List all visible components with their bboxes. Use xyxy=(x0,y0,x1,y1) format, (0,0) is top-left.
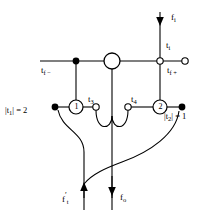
dot-open-bus-end xyxy=(182,58,188,64)
feedback-curve-left xyxy=(58,110,84,198)
flow-graph-svg xyxy=(0,0,214,216)
arrowhead-input-down xyxy=(156,17,164,26)
arc-t3-inner xyxy=(96,110,112,127)
label-f-input: fi xyxy=(171,13,176,22)
label-t-input: ti xyxy=(166,41,170,50)
label-f-input-sub: i xyxy=(174,16,176,23)
label-t-input-sub: i xyxy=(169,44,171,51)
label-mag-t1-sub: 1 xyxy=(9,109,12,116)
label-t4: t4 xyxy=(131,95,137,104)
dot-filled-t2 xyxy=(179,104,186,111)
label-mag-t2: |t2| = 1 xyxy=(164,112,186,121)
dot-filled-t1 xyxy=(52,104,59,111)
label-mag-t2-value: | = 1 xyxy=(171,111,186,121)
node-1-label: 1 xyxy=(72,103,81,111)
center-summing-junction xyxy=(104,53,120,69)
label-f-t-sub: t xyxy=(67,198,69,205)
label-f-o-sub: o xyxy=(123,196,126,203)
figure-canvas: 1 2 fi ti tf − tf + t3 t4 |t1| = 2 |t2| … xyxy=(0,0,214,216)
label-t3-sub: 3 xyxy=(91,98,94,105)
label-t-f-plus: tf + xyxy=(167,66,177,75)
label-mag-t1-value: | = 2 xyxy=(12,105,27,115)
node-2-label: 2 xyxy=(156,103,165,111)
label-mag-t2-sub: 2 xyxy=(168,115,171,122)
label-t-f-plus-sub: f + xyxy=(170,69,177,76)
label-t4-sub: 4 xyxy=(134,98,137,105)
dot-filled-top-left xyxy=(73,58,80,65)
label-t-f-minus: tf − xyxy=(41,66,51,75)
label-f-o: fo xyxy=(120,193,126,202)
dot-open-t4 xyxy=(125,104,131,110)
label-mag-t1: |t1| = 2 xyxy=(5,106,27,115)
label-t3: t3 xyxy=(88,95,94,104)
label-t-f-minus-sub: f − xyxy=(44,69,51,76)
arrowhead-output-down xyxy=(108,187,116,196)
label-f-t: f′t xyxy=(62,192,69,204)
arrowhead-output-up xyxy=(80,182,88,191)
arc-t4-inner xyxy=(112,110,128,127)
dot-open-top-right xyxy=(157,58,163,64)
